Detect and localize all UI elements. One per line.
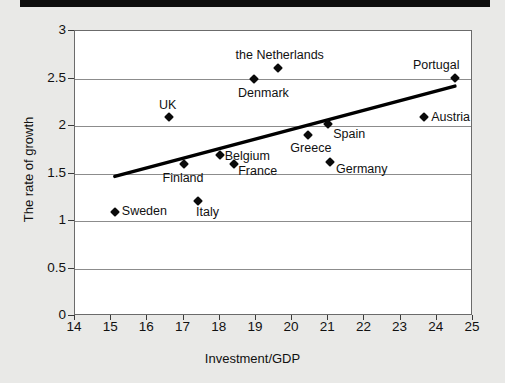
x-tick-label: 23 xyxy=(392,320,407,334)
data-point-label-sweden: Sweden xyxy=(122,205,167,218)
x-tick-label: 20 xyxy=(284,320,299,334)
y-tick-mark xyxy=(68,78,74,79)
data-point-label-denmark: Denmark xyxy=(238,87,289,100)
x-tick-label: 14 xyxy=(66,320,81,334)
x-tick-label: 21 xyxy=(320,320,335,334)
y-tick-label: 3 xyxy=(58,23,66,37)
y-tick-mark xyxy=(68,268,74,269)
data-point-label-austria: Austria xyxy=(431,111,470,124)
data-point-label-germany: Germany xyxy=(336,163,387,176)
data-point-label-italy: Italy xyxy=(196,206,219,219)
y-tick-mark xyxy=(68,220,74,221)
x-tick-label: 22 xyxy=(356,320,371,334)
y-tick-label: 0.5 xyxy=(47,261,66,275)
y-tick-label: 2.5 xyxy=(47,71,66,85)
data-point-label-spain: Spain xyxy=(333,128,365,141)
y-tick-label: 1.5 xyxy=(47,166,66,180)
x-tick-label: 16 xyxy=(139,320,154,334)
data-point-label-uk: UK xyxy=(159,99,176,112)
y-axis-title: The rate of growth xyxy=(21,90,36,250)
y-tick-mark xyxy=(68,30,74,31)
plot-area: SwedenItalyFinlandBelgiumFranceUKDenmark… xyxy=(74,30,472,315)
top-rule-divider xyxy=(20,0,490,7)
data-point-label-portugal: Portugal xyxy=(413,59,460,72)
x-tick-label: 15 xyxy=(103,320,118,334)
x-axis-title: Investment/GDP xyxy=(0,351,505,366)
y-tick-mark xyxy=(68,315,74,316)
x-tick-label: 25 xyxy=(464,320,479,334)
y-tick-label: 2 xyxy=(58,118,66,132)
chart-figure: SwedenItalyFinlandBelgiumFranceUKDenmark… xyxy=(0,0,505,383)
x-tick-label: 24 xyxy=(428,320,443,334)
x-tick-label: 18 xyxy=(211,320,226,334)
x-tick-label: 19 xyxy=(247,320,262,334)
x-axis-tick-labels: 141516171819202122232425 xyxy=(0,320,505,340)
y-tick-mark xyxy=(68,173,74,174)
data-point-label-finland: Finland xyxy=(163,172,204,185)
y-tick-mark xyxy=(68,125,74,126)
data-point-label-greece: Greece xyxy=(290,142,331,155)
data-point-label-the-netherlands: the Netherlands xyxy=(236,49,324,62)
x-tick-label: 17 xyxy=(175,320,190,334)
data-point-label-france: France xyxy=(238,165,277,178)
y-tick-label: 1 xyxy=(58,213,66,227)
